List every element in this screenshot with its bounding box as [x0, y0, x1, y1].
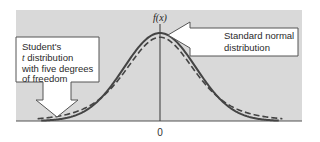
t-callout-line4: of freedom [22, 73, 67, 84]
t-callout-line2: t distribution [22, 52, 73, 63]
x-tick-zero: 0 [157, 127, 163, 138]
t-callout-line1: Student's [22, 41, 62, 52]
normal-callout-line2: distribution [224, 42, 270, 53]
normal-callout-line1: Standard normal [224, 30, 294, 41]
t-rest: distribution [25, 52, 74, 63]
t-vs-normal-figure: f(x) 0 Standard normal distribution Stud… [0, 0, 320, 142]
y-axis-label: f(x) [153, 12, 168, 24]
